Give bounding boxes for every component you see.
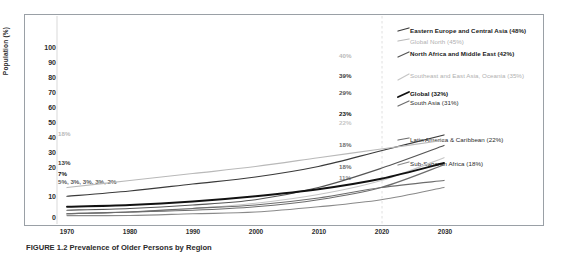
start-label-row-small: 5%, 3%, 3%, 3%, 2% <box>58 178 116 185</box>
x-tick-1990: 1990 <box>173 228 213 235</box>
y-tick-90: 90 <box>34 59 56 66</box>
legend-item-eastern-europe[interactable]: Eastern Europe and Central Asia (48%) <box>410 27 526 34</box>
y-tick-50: 50 <box>34 119 56 126</box>
value-2020-north-africa: 29% <box>339 89 351 96</box>
legend-item-global-north[interactable]: Global North (45%) <box>410 38 464 45</box>
y-tick-40: 40 <box>34 134 56 141</box>
y-tick-30: 30 <box>34 149 56 156</box>
value-2020-southeast-asia: 22% <box>339 119 351 126</box>
x-tick-2020: 2020 <box>362 228 402 235</box>
x-tick-1980: 1980 <box>110 228 150 235</box>
x-tick-2000: 2000 <box>236 228 276 235</box>
start-label-global: 7% <box>58 170 67 177</box>
value-2020-south-asia: 18% <box>339 141 351 148</box>
y-tick-20: 20 <box>34 164 56 171</box>
x-tick-1970: 1970 <box>47 228 87 235</box>
value-2020-latin-america: 18% <box>339 163 351 170</box>
chart-panel <box>24 14 544 226</box>
x-tick-2010: 2010 <box>299 228 339 235</box>
x-tick-2030: 2030 <box>425 228 465 235</box>
y-tick-80: 80 <box>34 74 56 81</box>
start-label-eastern-europe: 13% <box>58 159 70 166</box>
y-axis-title: Population (%) <box>2 6 9 96</box>
legend-item-north-africa[interactable]: North Africa and Middle East (42%) <box>410 50 514 57</box>
legend-item-subsaharan[interactable]: Sub-Saharan Africa (18%) <box>410 160 483 167</box>
y-tick-10: 10 <box>34 193 56 200</box>
value-2020-global-north: 40% <box>339 52 351 59</box>
value-2020-global: 23% <box>339 110 351 117</box>
legend-item-southeast-asia[interactable]: Southeast and East Asia, Oceania (35%) <box>410 72 524 79</box>
value-2020-eastern-europe: 39% <box>339 72 351 79</box>
legend-item-latin-america[interactable]: Latin America & Caribbean (22%) <box>410 136 503 143</box>
legend-item-global[interactable]: Global (32%) <box>410 90 448 97</box>
start-label-global-north: 18% <box>58 130 70 137</box>
y-tick-100: 100 <box>34 44 56 51</box>
y-tick-70: 70 <box>34 89 56 96</box>
figure-container: Population (%) 100 90 80 70 60 50 40 30 … <box>0 0 568 259</box>
legend-item-south-asia[interactable]: South Asia (31%) <box>410 99 459 106</box>
y-tick-60: 60 <box>34 104 56 111</box>
figure-caption: FIGURE 1.2 Prevalence of Older Persons b… <box>26 243 546 252</box>
value-2020-subsaharan: 11% <box>339 174 351 181</box>
y-tick-0: 0 <box>34 214 56 221</box>
